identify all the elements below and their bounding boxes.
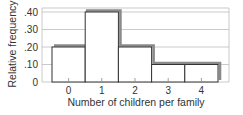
x-tick-label: 1 — [99, 85, 105, 96]
y-tick-label: .30 — [24, 24, 38, 35]
y-tick-label: .20 — [24, 42, 38, 53]
y-tick-label: 0 — [32, 77, 38, 88]
x-tick-label: 0 — [66, 85, 72, 96]
y-tick-label: .40 — [24, 7, 38, 18]
x-axis-tick-labels: 01234 — [66, 85, 205, 96]
x-axis-label: Number of children per family — [67, 96, 205, 108]
y-axis-tick-labels: 0.10.20.30.40 — [24, 7, 38, 88]
y-axis-label: Relative frequency — [6, 0, 18, 87]
x-tick-label: 3 — [165, 85, 171, 96]
y-tick-label: .10 — [24, 59, 38, 70]
bar-0 — [52, 47, 85, 82]
bar-2 — [118, 47, 151, 82]
x-tick-label: 4 — [199, 85, 205, 96]
x-tick-label: 2 — [132, 85, 138, 96]
bar-1 — [85, 12, 118, 82]
histogram-chart: 0.10.20.30.40 01234 Number of children p… — [0, 0, 243, 115]
